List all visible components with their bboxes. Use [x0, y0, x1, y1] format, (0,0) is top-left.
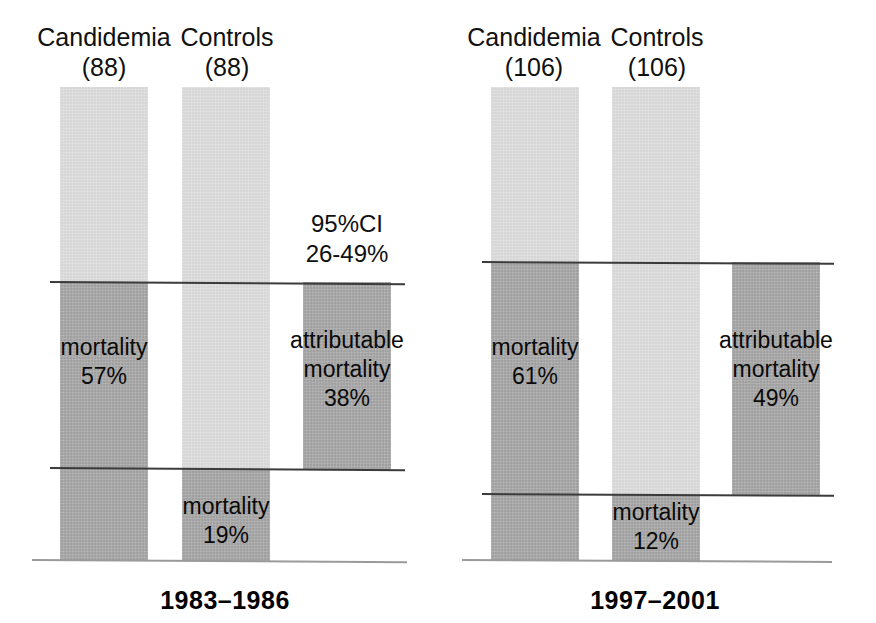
panel-left-attributable-mortality-label: attributable mortality 38% [288, 326, 406, 413]
label-line2: mortality [717, 355, 835, 384]
panel-left-controls-header: Controls (88) [166, 22, 288, 82]
label-value: 49% [717, 384, 835, 413]
panel-right-attributable-mortality-label: attributable mortality 49% [717, 326, 835, 413]
panel-right-candidemia-survivor-segment [491, 87, 579, 262]
label-value: 19% [168, 521, 284, 550]
label-value: 38% [288, 384, 406, 413]
chart-figure: Candidemia (88) Controls (88) mortality … [0, 0, 876, 623]
panel-left-controls-mortality-label: mortality 19% [168, 492, 284, 550]
panel-left-confidence-interval-annotation: 95%CI 26-49% [288, 209, 406, 269]
group-count: (106) [596, 52, 718, 82]
label-text: mortality [46, 333, 162, 362]
group-name: Controls [610, 23, 703, 51]
label-line2: mortality [288, 355, 406, 384]
label-text: mortality [168, 492, 284, 521]
group-name: Controls [180, 23, 273, 51]
panel-right-controls-header: Controls (106) [596, 22, 718, 82]
group-count: (88) [166, 52, 288, 82]
ci-line1: 95%CI [288, 209, 406, 239]
label-value: 12% [598, 527, 714, 556]
panel-left-period-label: 1983–1986 [60, 586, 390, 615]
ci-line2: 26-49% [288, 239, 406, 269]
label-text: mortality [598, 498, 714, 527]
panel-right-period-label: 1997–2001 [490, 586, 820, 615]
panel-left-candidemia-mortality-label: mortality 57% [46, 333, 162, 391]
label-text: mortality [477, 333, 593, 362]
label-line1: attributable [717, 326, 835, 355]
panel-left-candidemia-survivor-segment [60, 87, 148, 282]
group-name: Candidemia [37, 23, 170, 51]
panel-left-controls-survivor-segment [182, 87, 270, 469]
panel-left-candidemia-mortality-segment [60, 282, 148, 561]
group-name: Candidemia [467, 23, 600, 51]
panel-right-candidemia-mortality-label: mortality 61% [477, 333, 593, 391]
panel-right-controls-survivor-segment [612, 87, 700, 495]
panel-right-baseline-rule [462, 559, 832, 563]
panel-left-baseline-rule [32, 559, 407, 563]
label-value: 61% [477, 362, 593, 391]
label-value: 57% [46, 362, 162, 391]
label-line1: attributable [288, 326, 406, 355]
panel-right-controls-mortality-label: mortality 12% [598, 498, 714, 556]
panel-right-candidemia-mortality-segment [491, 262, 579, 561]
